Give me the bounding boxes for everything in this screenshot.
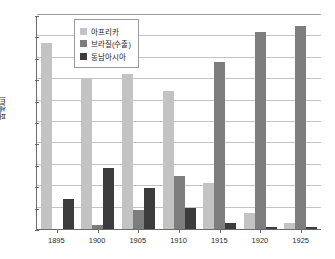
legend: 아프리카 브라질(수출) 동남아시아 <box>74 19 139 68</box>
y-axis-tick-mark <box>35 59 39 60</box>
x-axis-tick-label: 1920 <box>240 236 281 245</box>
y-axis-tick-mark <box>35 187 39 188</box>
legend-swatch-icon <box>80 28 87 35</box>
y-axis-tick-mark <box>35 102 39 103</box>
bar <box>122 74 133 229</box>
x-axis-tick-mark <box>98 229 99 233</box>
x-axis-tick-mark <box>220 229 221 233</box>
x-axis-tick-label: 1910 <box>158 236 199 245</box>
bar <box>244 213 255 229</box>
legend-swatch-icon <box>80 53 87 60</box>
x-axis-tick-label: 1915 <box>199 236 240 245</box>
bar <box>174 176 185 230</box>
legend-item-southeast-asia: 동남아시아 <box>80 51 131 62</box>
x-axis-tick-mark <box>301 229 302 233</box>
legend-swatch-icon <box>80 40 87 47</box>
x-axis-tick-label: 1905 <box>117 236 158 245</box>
bar-group <box>37 16 78 229</box>
y-axis-tick-mark <box>35 230 39 231</box>
x-axis-tick-label: 1895 <box>36 236 77 245</box>
bar <box>284 223 295 229</box>
x-axis-tick-mark <box>57 229 58 233</box>
y-axis-tick-mark <box>35 123 39 124</box>
bar <box>103 168 114 229</box>
bar <box>163 91 174 229</box>
legend-label: 아프리카 <box>91 26 119 37</box>
gridline <box>37 14 321 15</box>
bar <box>133 210 144 229</box>
legend-item-brazil: 브라질(수출) <box>80 38 131 49</box>
y-axis-title: 퍼센트 <box>0 96 9 120</box>
x-axis-tick-label: 1900 <box>77 236 118 245</box>
bar-group <box>159 16 200 229</box>
legend-label: 브라질(수출) <box>91 38 131 49</box>
bar <box>81 79 92 229</box>
bar-group <box>280 16 321 229</box>
x-axis-ticks: 1895190019051910191519201925 <box>36 236 321 245</box>
bar-group <box>240 16 281 229</box>
legend-label: 동남아시아 <box>91 51 126 62</box>
y-axis-tick-mark <box>35 37 39 38</box>
legend-item-africa: 아프리카 <box>80 26 131 37</box>
bar <box>203 183 214 229</box>
bar <box>255 32 266 229</box>
y-axis-tick-mark <box>35 80 39 81</box>
y-axis-tick-mark <box>35 209 39 210</box>
y-axis-tick-mark <box>35 144 39 145</box>
x-axis-tick-label: 1925 <box>280 236 321 245</box>
x-axis-tick-mark <box>260 229 261 233</box>
bar <box>225 223 236 229</box>
bar-chart: 퍼센트 1009080706050403020100 1895190019051… <box>0 0 335 259</box>
bar <box>295 26 306 229</box>
bar <box>266 227 277 229</box>
bar <box>185 208 196 229</box>
bar-group <box>199 16 240 229</box>
x-axis-tick-mark <box>138 229 139 233</box>
bar <box>41 43 52 229</box>
y-axis-tick-mark <box>35 16 39 17</box>
bar <box>144 188 155 229</box>
y-axis-tick-mark <box>35 166 39 167</box>
bar <box>306 227 317 229</box>
bar <box>214 62 225 229</box>
bar <box>63 199 74 229</box>
x-axis-tick-mark <box>179 229 180 233</box>
